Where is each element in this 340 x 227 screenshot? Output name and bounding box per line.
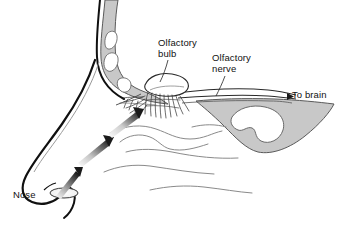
label-nose: Nose (13, 190, 36, 201)
label-olfactory-nerve: Olfactorynerve (212, 53, 251, 74)
label-olfactory-bulb-line2: bulb (158, 48, 176, 59)
label-to-brain: To brain (292, 90, 327, 101)
diagram-canvas (0, 0, 340, 227)
nose-profile (23, 60, 95, 204)
airflow-arrow-upper (108, 107, 144, 138)
bone-cavity-3 (117, 78, 131, 92)
label-olfactory-nerve-line1: Olfactory (212, 52, 251, 63)
label-olfactory-bulb: Olfactorybulb (158, 38, 197, 59)
olfactory-diagram: Olfactorybulb Olfactorynerve To brain No… (0, 0, 340, 227)
olfactory-bulb (145, 73, 189, 96)
leader-olfactory-nerve (216, 76, 225, 96)
label-olfactory-bulb-line1: Olfactory (158, 37, 197, 48)
nasal-turbinates (104, 125, 252, 193)
label-olfactory-nerve-line2: nerve (212, 63, 236, 74)
airflow-arrow-lower (78, 135, 114, 167)
sphenoid-structure (196, 99, 334, 153)
